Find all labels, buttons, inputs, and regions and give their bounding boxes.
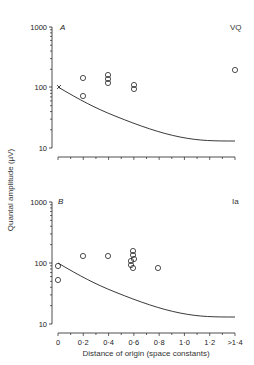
panel-a: A VQ 1000 100 10 xyxy=(30,23,241,160)
data-point xyxy=(80,253,85,258)
x-axis-title: Distance of origin (space constants) xyxy=(82,349,210,358)
panel-b-ytick-10: 10 xyxy=(39,320,47,329)
figure: Quantal amplitude (µV) A VQ 1000 100 10 xyxy=(0,0,254,365)
x-tick-label: 1·2 xyxy=(204,338,215,347)
x-tick-label: 0·4 xyxy=(103,338,114,347)
panel-b-ytick-1000: 1000 xyxy=(30,198,47,207)
x-tick-label: 0·8 xyxy=(154,338,165,347)
panel-a-points xyxy=(57,67,238,98)
data-point xyxy=(232,67,237,72)
panel-b-x-tick-labels: 00·20·40·60·81·01·2>1·4 xyxy=(56,338,243,347)
panel-a-ytick-100: 100 xyxy=(34,83,47,92)
panel-b: B Ia 1000 100 10 00·20·40·60·81·01·2>1·4… xyxy=(30,197,242,358)
x-tick-label: 0 xyxy=(56,338,60,347)
data-point xyxy=(80,93,85,98)
panel-a-corner-label: VQ xyxy=(230,23,242,32)
panel-b-ytick-100: 100 xyxy=(34,259,47,268)
panel-a-curve xyxy=(58,87,235,141)
data-point xyxy=(131,86,136,91)
panel-b-label: B xyxy=(58,197,64,206)
panel-b-curve xyxy=(58,263,235,317)
data-point xyxy=(105,80,110,85)
data-point xyxy=(155,265,160,270)
data-point xyxy=(105,253,110,258)
panel-a-label: A xyxy=(59,23,65,32)
panel-a-ytick-1000: 1000 xyxy=(30,23,47,32)
cross-marker xyxy=(57,85,61,89)
panel-a-ytick-10: 10 xyxy=(39,144,47,153)
x-tick-label: >1·4 xyxy=(227,338,242,347)
panel-a-x-ticks xyxy=(58,157,235,160)
panel-b-x-ticks xyxy=(58,333,235,336)
y-axis-title: Quantal amplitude (µV) xyxy=(6,148,15,231)
data-point xyxy=(80,75,85,80)
panel-b-corner-label: Ia xyxy=(232,197,239,206)
x-tick-label: 0·6 xyxy=(128,338,139,347)
x-tick-label: 0·2 xyxy=(78,338,89,347)
panel-b-points xyxy=(55,248,160,282)
data-point xyxy=(55,263,60,268)
data-point xyxy=(55,277,60,282)
x-tick-label: 1·0 xyxy=(179,338,190,347)
